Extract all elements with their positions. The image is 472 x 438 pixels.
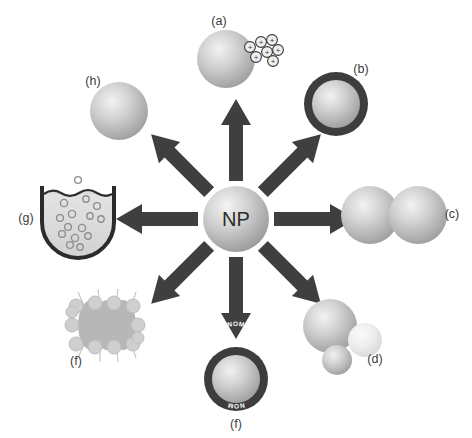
arrow-to-panel-g xyxy=(116,204,198,234)
svg-text:+: + xyxy=(271,57,276,66)
panel-g-label: (g) xyxy=(18,211,33,225)
arrow-to-panel-a xyxy=(221,99,251,181)
panel-h-sphere xyxy=(90,82,148,140)
plus-charge-icon: + xyxy=(256,37,267,48)
panel-b-core xyxy=(312,80,360,128)
svg-text:+: + xyxy=(259,38,264,47)
arrow-to-panel-b xyxy=(252,124,331,203)
panel-d-sphere-small xyxy=(322,345,352,375)
panel-c-sphere-2 xyxy=(389,186,447,244)
panel-a-label: (a) xyxy=(211,14,226,28)
panel-a-sphere xyxy=(197,30,255,88)
panel-b: (b) xyxy=(304,62,369,136)
panel-e-core xyxy=(212,355,260,403)
panel-b-label: (b) xyxy=(353,62,368,76)
svg-text:+: + xyxy=(248,43,253,52)
plus-charge-icon: + xyxy=(273,45,284,56)
plus-charge-icon: + xyxy=(268,56,279,67)
panel-a: + + + + + + + (a) xyxy=(197,14,283,88)
center-nanoparticle: NP xyxy=(203,186,269,252)
plus-charge-icon: + xyxy=(245,42,256,53)
panel-d: (d) xyxy=(303,299,383,375)
plus-charge-icon: + xyxy=(267,35,278,46)
center-np-label: NP xyxy=(222,208,250,230)
panel-e-nom-top: NOM xyxy=(227,320,245,328)
figure-canvas: NP + + + + + + + (a) (b) (c) (d) xyxy=(0,0,472,438)
panel-h: (h) xyxy=(85,74,148,140)
plus-charge-icon: + xyxy=(251,52,262,63)
svg-text:+: + xyxy=(265,48,270,57)
svg-text:+: + xyxy=(254,53,259,62)
panel-e-label: (f) xyxy=(230,417,242,431)
svg-text:+: + xyxy=(276,46,281,55)
panel-c-label: (c) xyxy=(445,207,460,221)
panel-g: (g) xyxy=(18,177,114,258)
panel-d-label: (d) xyxy=(367,352,382,366)
panel-h-label: (h) xyxy=(85,74,100,88)
svg-text:+: + xyxy=(270,36,275,45)
arrow-to-panel-h xyxy=(141,124,220,203)
panel-e-nom-bottom: NOM xyxy=(227,402,245,410)
panel-c: (c) xyxy=(341,186,459,244)
panel-f: (f) xyxy=(65,289,145,368)
panel-f-label: (f) xyxy=(70,354,82,368)
arrow-to-panel-f xyxy=(141,235,220,314)
